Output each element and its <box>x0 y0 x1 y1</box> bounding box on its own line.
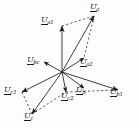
label-U_bc: Ubc <box>27 56 40 64</box>
label-subscript-U_c1: c1 <box>10 89 16 95</box>
label-U_a1: Ua1 <box>41 16 54 24</box>
label-U_a2: Ua2 <box>80 58 93 66</box>
label-subscript-U_a: a <box>96 6 99 12</box>
vector-U_c2 <box>62 72 66 92</box>
phasor-vector-canvas <box>0 0 138 128</box>
phasor-diagram-figure: UaUa1Ua2UbcUbUb1Uc2Uc1Uc <box>0 0 138 128</box>
label-subscript-U_c: c <box>30 115 33 121</box>
construction-line-Ua-to-Ua2 <box>84 16 94 58</box>
vector-U_c1 <box>22 72 62 92</box>
label-U_c2: Uc2 <box>61 92 74 100</box>
label-subscript-U_a2: a2 <box>86 61 92 67</box>
label-U_c1: Uc1 <box>4 86 17 94</box>
label-subscript-U_bc: bc <box>33 59 39 65</box>
label-subscript-U_b: b <box>82 89 85 95</box>
label-U_a: Ua <box>90 3 100 11</box>
label-subscript-U_b1: b1 <box>116 91 123 97</box>
vector-U_c <box>32 72 62 114</box>
label-subscript-U_c2: c2 <box>67 95 73 101</box>
label-U_c: Uc <box>24 112 33 120</box>
label-U_b1: Ub1 <box>110 88 123 96</box>
vector-U_bc <box>44 62 62 72</box>
label-U_b: Ub <box>76 86 86 94</box>
label-subscript-U_a1: a1 <box>47 19 53 25</box>
